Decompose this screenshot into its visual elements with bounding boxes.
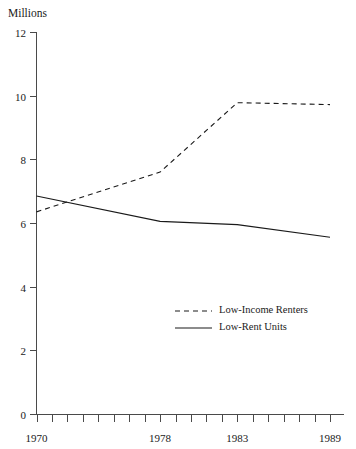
line-chart: Millions 024681012 1970197819831989 Low-…	[0, 0, 356, 449]
y-tick-group	[30, 33, 37, 415]
y-axis: 024681012	[15, 27, 37, 421]
x-tick-label: 1983	[226, 432, 249, 444]
y-tick-label: 6	[21, 218, 27, 230]
legend-label: Low-Income Renters	[219, 304, 308, 315]
y-tick-label: 12	[15, 27, 26, 39]
y-tick-label-group: 024681012	[15, 27, 27, 421]
x-tick-label: 1970	[26, 432, 49, 444]
y-tick-label: 8	[21, 154, 27, 166]
series-line-low-rent-units	[37, 196, 331, 237]
series-line-low-income-renters	[37, 103, 331, 212]
x-tick-label: 1989	[319, 432, 342, 444]
series-group	[37, 103, 331, 238]
x-tick-label: 1978	[149, 432, 172, 444]
x-tick-group	[38, 415, 331, 423]
chart-container: Millions 024681012 1970197819831989 Low-…	[0, 0, 356, 449]
y-tick-label: 0	[21, 409, 27, 421]
x-axis: 1970197819831989	[26, 415, 345, 445]
y-tick-label: 4	[21, 282, 27, 294]
y-axis-title: Millions	[8, 7, 48, 19]
y-tick-label: 2	[21, 345, 27, 357]
y-tick-label: 10	[15, 91, 27, 103]
chart-legend: Low-Income RentersLow-Rent Units	[175, 304, 308, 332]
x-tick-label-group: 1970197819831989	[26, 432, 342, 444]
legend-label: Low-Rent Units	[219, 321, 287, 332]
